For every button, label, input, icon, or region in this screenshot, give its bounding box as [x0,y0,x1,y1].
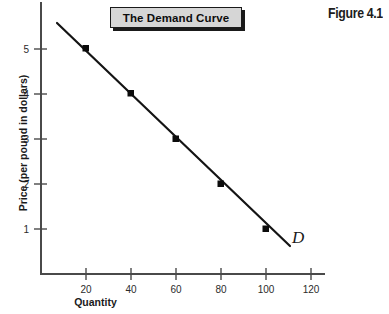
y-tick-label-2: 2 [23,179,29,190]
y-tick-label-5: 5 [23,44,29,55]
y-axis-ticks: 5 4 3 2 1 [23,44,47,235]
y-tick-label-3: 3 [23,134,29,145]
x-tick-label-100: 100 [258,284,275,295]
x-tick-label-40: 40 [125,284,137,295]
x-axis-ticks: 20 40 60 80 100 120 [80,268,319,295]
x-tick-label-120: 120 [303,284,320,295]
demand-curve-label: D [291,228,305,247]
data-point-marker [128,90,135,97]
data-point-marker [173,136,180,143]
demand-curve-plot: 5 4 3 2 1 20 40 60 80 100 120 [0,0,389,314]
x-tick-label-80: 80 [215,284,227,295]
data-point-marker [263,226,270,233]
y-tick-label-4: 4 [23,89,29,100]
data-point-marker [218,181,225,188]
y-tick-label-1: 1 [23,224,29,235]
x-tick-label-60: 60 [170,284,182,295]
demand-curve-line [57,23,290,246]
data-point-marker [83,45,90,52]
figure-canvas: Figure 4.1 The Demand Curve 5 4 3 2 1 20… [0,0,389,314]
x-tick-label-20: 20 [80,284,92,295]
